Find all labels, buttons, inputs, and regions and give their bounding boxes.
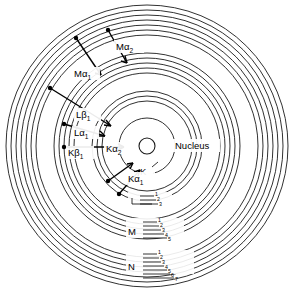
nucleus-circle — [139, 138, 155, 154]
diagram-canvas: Nucleus K Mα1 Mα2 Lβ1 Lα1 — [0, 0, 294, 296]
n-sublevel-label-7: 7 — [175, 276, 178, 282]
nucleus-label: Nucleus — [175, 140, 210, 151]
transition-l-alpha-1: Lα1 — [62, 122, 105, 140]
shell-label-m: M — [128, 226, 136, 237]
xray-transition-diagram: Nucleus K Mα1 Mα2 Lβ1 Lα1 — [0, 0, 294, 296]
k-leader-line — [152, 162, 158, 167]
n-sublevel-label-6: 6 — [171, 272, 174, 278]
l-sublevel-label-3: 3 — [159, 201, 162, 207]
shell-label-n: N — [128, 261, 135, 272]
sublevel-bracket-l: 1 2 3 — [128, 191, 172, 208]
m-sublevel-label-5: 5 — [168, 236, 171, 242]
transition-m-alpha-1: Mα1 — [72, 36, 101, 81]
transition-m-alpha-2: Mα2 — [106, 28, 144, 63]
